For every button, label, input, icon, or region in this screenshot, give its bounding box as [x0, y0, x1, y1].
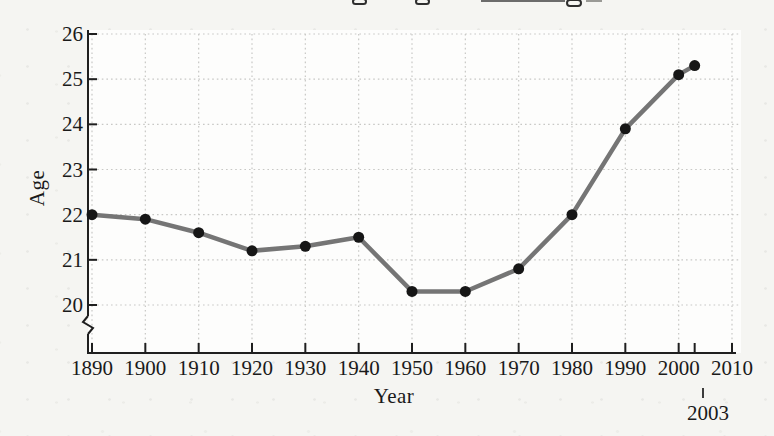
- y-axis-title: Age: [25, 158, 49, 218]
- x-tick-label: 1940: [338, 356, 380, 380]
- y-tick-label: 25: [62, 67, 83, 91]
- x-tick-label: 1890: [71, 356, 113, 380]
- y-tick-label: 21: [62, 248, 83, 272]
- annotation-2003-label: 2003: [676, 401, 740, 426]
- data-point: [407, 286, 418, 297]
- data-point: [567, 209, 578, 220]
- data-point: [193, 227, 204, 238]
- line-chart: 2021222324252618901900191019201930194019…: [0, 0, 774, 436]
- y-tick-label: 26: [62, 22, 83, 46]
- data-point: [353, 232, 364, 243]
- y-tick-label: 24: [62, 112, 84, 136]
- data-point: [460, 286, 471, 297]
- x-tick-label: 1950: [391, 356, 433, 380]
- x-tick-label: 1980: [551, 356, 593, 380]
- x-tick-label: 1970: [498, 356, 540, 380]
- annotation-pointer-line: [702, 388, 704, 398]
- x-tick-label: 1960: [444, 356, 486, 380]
- data-point: [87, 209, 98, 220]
- x-tick-label: 1900: [124, 356, 166, 380]
- data-point: [620, 123, 631, 134]
- y-tick-label: 20: [62, 293, 83, 317]
- data-point: [673, 69, 684, 80]
- x-tick-label: 1930: [284, 356, 326, 380]
- x-tick-label: 2010: [711, 356, 753, 380]
- x-tick-label: 1920: [231, 356, 273, 380]
- chart-figure: 2021222324252618901900191019201930194019…: [0, 0, 774, 436]
- x-tick-label: 1990: [604, 356, 646, 380]
- data-point: [247, 245, 258, 256]
- x-tick-label: 2000: [658, 356, 700, 380]
- x-tick-label: 1910: [178, 356, 220, 380]
- data-point: [689, 60, 700, 71]
- data-point: [300, 241, 311, 252]
- data-point: [140, 214, 151, 225]
- x-axis-title: Year: [344, 384, 444, 409]
- data-point: [513, 263, 524, 274]
- y-tick-label: 22: [62, 203, 83, 227]
- y-tick-label: 23: [62, 158, 83, 182]
